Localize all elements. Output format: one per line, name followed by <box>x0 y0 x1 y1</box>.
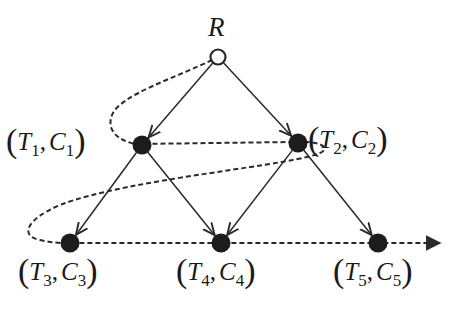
label-paren: ( <box>308 120 319 157</box>
label-sub: 3 <box>43 271 52 290</box>
label-sub: 2 <box>333 139 342 158</box>
tree-traversal-diagram: R (T1,C1)(T2,C2)(T3,C3)(T4,C4)(T5,C5) <box>0 0 468 310</box>
node-label-n1: (T1,C1) <box>6 124 86 159</box>
label-paren: ) <box>401 252 412 289</box>
label-var: T <box>187 258 201 285</box>
node-label-n3: (T3,C3) <box>18 254 98 289</box>
label-sub: 1 <box>31 141 40 160</box>
node-n4 <box>212 234 231 253</box>
label-paren: ( <box>6 122 17 159</box>
label-sub: 2 <box>368 139 377 158</box>
root-node <box>211 50 226 65</box>
node-label-n2: (T2,C2) <box>308 122 388 157</box>
label-var: C <box>61 258 78 285</box>
root-label: R <box>208 14 225 41</box>
label-sub: 5 <box>358 271 367 290</box>
label-paren: ( <box>176 252 187 289</box>
node-label-n4: (T4,C4) <box>176 254 256 289</box>
label-sub: 1 <box>66 141 75 160</box>
edge-R-n2 <box>223 63 291 136</box>
node-n5 <box>369 234 388 253</box>
label-comma: , <box>52 258 58 285</box>
label-paren: ( <box>18 252 29 289</box>
label-var: T <box>17 128 31 155</box>
label-comma: , <box>342 126 348 153</box>
label-paren: ) <box>376 120 387 157</box>
label-var: C <box>376 258 393 285</box>
edge-n2-n4 <box>227 150 292 235</box>
label-comma: , <box>367 258 373 285</box>
node-n1 <box>133 136 152 155</box>
label-comma: , <box>210 258 216 285</box>
label-var: C <box>49 128 66 155</box>
label-var: T <box>319 126 333 153</box>
label-var: C <box>219 258 236 285</box>
edge-n1-n3 <box>76 152 137 235</box>
label-var: T <box>344 258 358 285</box>
label-var: T <box>29 258 43 285</box>
node-n3 <box>61 234 80 253</box>
label-paren: ) <box>74 122 85 159</box>
label-paren: ) <box>244 252 255 289</box>
label-var: C <box>351 126 368 153</box>
label-comma: , <box>40 128 46 155</box>
label-sub: 4 <box>236 271 245 290</box>
label-sub: 4 <box>201 271 210 290</box>
edge-n2-n5 <box>304 150 372 235</box>
node-label-n5: (T5,C5) <box>333 254 413 289</box>
label-paren: ( <box>333 252 344 289</box>
label-sub: 3 <box>78 271 87 290</box>
label-paren: ) <box>86 252 97 289</box>
label-sub: 5 <box>393 271 402 290</box>
edge-n1-n4 <box>148 152 215 235</box>
node-n2 <box>289 134 308 153</box>
